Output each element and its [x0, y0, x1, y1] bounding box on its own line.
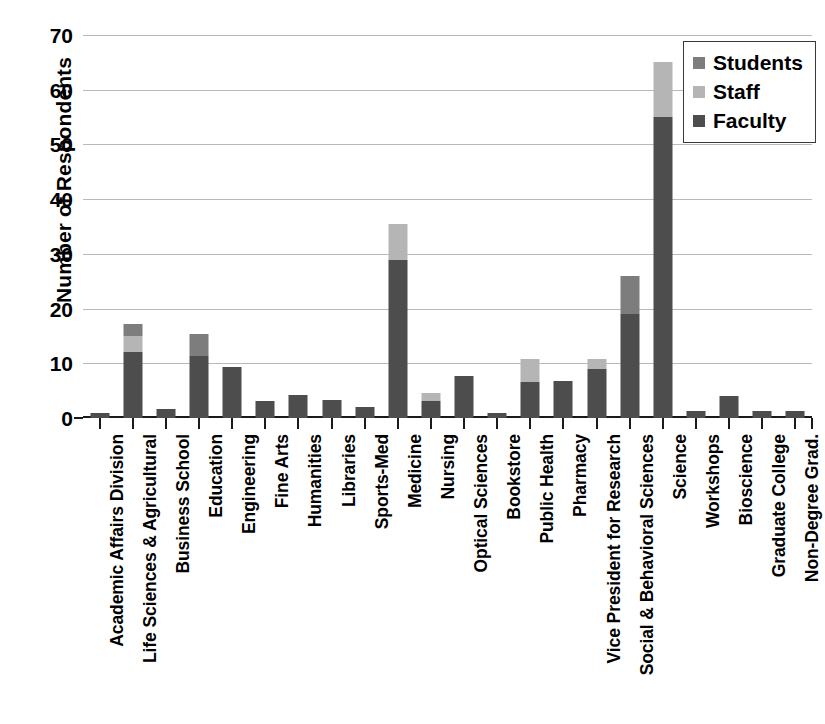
bar-slot — [448, 35, 481, 418]
legend-item[interactable]: Students — [693, 48, 803, 77]
legend-swatch-icon — [693, 115, 705, 127]
bar-segment-faculty — [753, 411, 772, 418]
x-axis-tick-label: Graduate College — [769, 434, 790, 577]
bar-slot — [249, 35, 282, 418]
bar-segment-staff — [421, 393, 440, 400]
bar-slot — [414, 35, 447, 418]
x-axis-tick-label: Academic Affairs Division — [107, 434, 128, 647]
stacked-bar[interactable] — [653, 62, 672, 418]
x-axis-tick-mark — [231, 418, 233, 429]
bar-slot — [282, 35, 315, 418]
bar-slot — [646, 35, 679, 418]
bar-segment-faculty — [687, 411, 706, 418]
bar-segment-faculty — [355, 407, 374, 418]
stacked-bar[interactable] — [355, 407, 374, 418]
x-axis-tick-label: Bookstore — [504, 434, 525, 520]
x-axis-tick-mark — [596, 418, 598, 429]
x-axis-tick-label: Pharmacy — [570, 434, 591, 517]
y-axis-tick-label: 10 — [17, 353, 73, 374]
stacked-bar[interactable] — [223, 367, 242, 418]
bar-slot — [348, 35, 381, 418]
x-axis-tick-mark — [132, 418, 134, 429]
stacked-bar[interactable] — [123, 324, 142, 418]
x-axis-tick-mark — [198, 418, 200, 429]
bar-slot — [83, 35, 116, 418]
x-axis-tick-mark — [562, 418, 564, 429]
bar-segment-faculty — [388, 260, 407, 418]
bar-segment-faculty — [223, 367, 242, 418]
x-axis-tick-label: Sports-Med — [372, 434, 393, 529]
bar-segment-staff — [587, 359, 606, 368]
stacked-bar[interactable] — [620, 276, 639, 418]
y-axis-tick-label: 30 — [17, 243, 73, 264]
x-axis-tick-label: Engineering — [239, 434, 260, 534]
stacked-bar[interactable] — [720, 396, 739, 418]
x-axis-tick-label: Education — [206, 434, 227, 518]
x-axis-tick-label: Life Sciences & Agricultural — [140, 434, 161, 663]
y-axis-tick-label: 50 — [17, 134, 73, 155]
x-axis-tick-label: Non-Degree Grad. — [802, 434, 823, 582]
stacked-bar[interactable] — [421, 393, 440, 418]
bar-slot — [547, 35, 580, 418]
x-axis-tick-mark — [761, 418, 763, 429]
bar-segment-faculty — [720, 396, 739, 418]
bar-segment-faculty — [256, 401, 275, 419]
bar-segment-faculty — [554, 381, 573, 418]
x-axis-tick-mark — [662, 418, 664, 429]
stacked-bar[interactable] — [256, 401, 275, 419]
bar-segment-faculty — [421, 401, 440, 419]
x-axis-tick-label: Business School — [173, 434, 194, 574]
stacked-bar[interactable] — [753, 411, 772, 418]
x-axis-tick-mark — [463, 418, 465, 429]
stacked-bar[interactable] — [587, 359, 606, 418]
x-axis-tick-mark — [811, 418, 813, 429]
stacked-bar[interactable] — [189, 334, 208, 418]
stacked-bar[interactable] — [687, 411, 706, 418]
y-axis-tick-label: 0 — [17, 408, 73, 429]
bar-segment-staff — [653, 62, 672, 117]
bar-segment-faculty — [620, 314, 639, 418]
bar-segment-faculty — [455, 376, 474, 418]
x-axis-tick-label: Fine Arts — [272, 434, 293, 508]
y-axis-tick-mark — [74, 417, 83, 419]
y-axis-tick-label: 70 — [17, 25, 73, 46]
bar-segment-faculty — [786, 411, 805, 418]
x-axis-tick-label: Public Health — [537, 434, 558, 544]
x-axis-tick-mark — [728, 418, 730, 429]
x-axis-tick-mark — [794, 418, 796, 429]
x-axis-tick-mark — [331, 418, 333, 429]
x-axis-tick-label: Libraries — [339, 434, 360, 507]
bar-segment-faculty — [587, 369, 606, 418]
bar-segment-students — [620, 276, 639, 314]
legend-item[interactable]: Faculty — [693, 106, 803, 135]
bar-slot — [580, 35, 613, 418]
legend-label: Faculty — [713, 110, 787, 131]
y-axis-tick-label: 20 — [17, 298, 73, 319]
stacked-bar[interactable] — [521, 359, 540, 418]
x-axis-tick-mark — [364, 418, 366, 429]
bar-slot — [514, 35, 547, 418]
bar-segment-faculty — [322, 400, 341, 418]
x-axis-tick-label: Nursing — [438, 434, 459, 499]
bar-slot — [481, 35, 514, 418]
legend-item[interactable]: Staff — [693, 77, 803, 106]
chart-legend: StudentsStaffFaculty — [683, 41, 816, 143]
bar-segment-faculty — [653, 117, 672, 418]
x-axis-tick-mark — [297, 418, 299, 429]
legend-swatch-icon — [693, 86, 705, 98]
x-axis-tick-mark — [99, 418, 101, 429]
stacked-bar[interactable] — [455, 376, 474, 418]
stacked-bar[interactable] — [289, 395, 308, 418]
stacked-bar[interactable] — [388, 224, 407, 418]
stacked-bar[interactable] — [786, 411, 805, 418]
stacked-bar[interactable] — [156, 409, 175, 418]
x-axis-tick-label: Vice President for Research — [604, 434, 625, 663]
bar-slot — [116, 35, 149, 418]
y-axis-title: Number of Respondents — [52, 20, 76, 340]
x-axis-tick-label: Optical Sciences — [471, 434, 492, 572]
stacked-bar[interactable] — [322, 400, 341, 418]
x-axis-tick-mark — [397, 418, 399, 429]
stacked-bar[interactable] — [554, 381, 573, 418]
x-axis-tick-label: Workshops — [703, 434, 724, 528]
x-axis-tick-mark — [430, 418, 432, 429]
